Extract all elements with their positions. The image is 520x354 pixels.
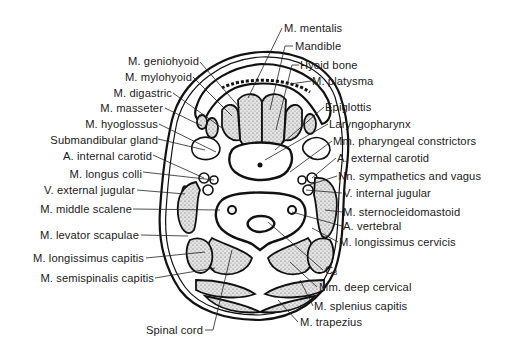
label-levator-scapulae: M. levator scapulae [40,229,139,242]
label-pharyngeal-constrictors: Mm. pharyngeal constrictors [333,135,476,148]
label-deep-cervical: Mm. deep cervical [319,281,411,294]
anatomy-figure: M. geniohyoid M. mylohyoid M. digastric … [0,0,520,354]
label-external-carotid: A. external carotid [337,152,429,165]
label-internal-jugular: V. internal jugular [343,187,431,200]
label-sternocleidomastoid: M. sternocleidomastoid [343,206,460,219]
label-laryngopharynx: Laryngopharynx [329,118,411,131]
label-digastric: M. digastric [114,87,172,100]
label-c3-vertebra: C3 [325,264,337,279]
label-submandibular-gland: Submandibular gland [50,134,158,147]
label-mylohyoid: M. mylohyoid [125,71,192,84]
label-sympathetics-vagus: Nn. sympathetics and vagus [338,170,481,183]
label-internal-carotid: A. internal carotid [63,150,152,163]
label-longissimus-capitis: M. longissimus capitis [33,252,144,265]
label-splenius-capitis: M. splenius capitis [314,300,407,313]
label-semispinalis-capitis: M. semispinalis capitis [40,272,154,285]
label-trapezius: M. trapezius [300,316,362,329]
label-masseter: M. masseter [100,102,163,115]
label-epiglottis: Epiglottis [325,101,371,114]
label-mentalis: M. mentalis [284,22,342,35]
label-spinal-cord: Spinal cord [146,324,203,337]
label-platysma: M. platysma [312,75,373,88]
label-longus-colli: M. longus colli [70,168,142,181]
label-external-jugular: V. external jugular [44,184,135,197]
label-middle-scalene: M. middle scalene [40,203,132,216]
label-vertebral-artery: A. vertebral [343,220,401,233]
label-longissimus-cervicis: M. longissimus cervicis [339,236,456,249]
label-mandible: Mandible [295,40,341,53]
label-geniohyoid: M. geniohyoid [128,55,199,68]
larynx-shape [229,143,292,181]
label-hyoglossus: M. hyoglossus [85,118,158,131]
label-hyoid-bone: Hyoid bone [300,59,358,72]
